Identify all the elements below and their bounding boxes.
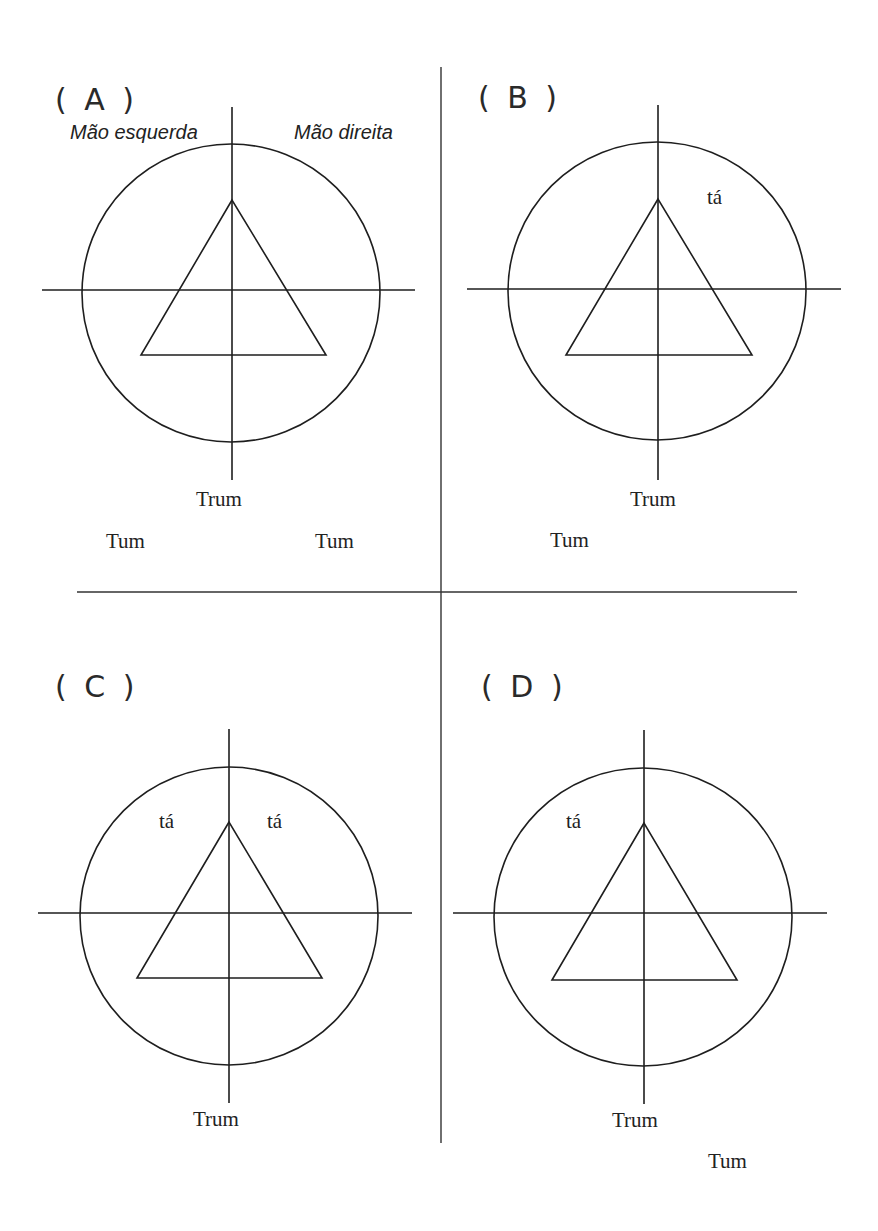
panel-label: ( C ) <box>55 669 138 704</box>
panel-d: ( D )táTrumTum <box>453 669 827 1173</box>
panel-label: ( A ) <box>55 82 138 117</box>
syllable-label: Tum <box>106 529 145 553</box>
syllable-label: Trum <box>612 1108 658 1132</box>
syllable-label: tá <box>159 809 175 833</box>
panels-group: ( A )Mão esquerdaMão direitaTrumTumTum( … <box>38 80 841 1173</box>
syllable-label: tá <box>566 809 582 833</box>
hand-label: Mão esquerda <box>70 121 198 143</box>
syllable-label: Trum <box>193 1107 239 1131</box>
hand-label: Mão direita <box>294 121 393 143</box>
syllable-label: Trum <box>630 487 676 511</box>
rhythm-diagram: ( A )Mão esquerdaMão direitaTrumTumTum( … <box>0 0 878 1231</box>
syllable-label: Tum <box>708 1149 747 1173</box>
panel-a: ( A )Mão esquerdaMão direitaTrumTumTum <box>42 82 415 553</box>
syllable-label: tá <box>707 185 723 209</box>
panel-label: ( B ) <box>478 80 561 115</box>
triangle-shape <box>566 199 752 355</box>
panel-c: ( C )tátáTrum <box>38 669 412 1131</box>
syllable-label: Tum <box>550 528 589 552</box>
circle-shape <box>494 768 792 1066</box>
syllable-label: tá <box>267 809 283 833</box>
diagram-canvas: ( A )Mão esquerdaMão direitaTrumTumTum( … <box>0 0 878 1231</box>
syllable-label: Trum <box>196 487 242 511</box>
circle-shape <box>508 142 806 440</box>
panel-label: ( D ) <box>481 669 567 704</box>
panel-b: ( B )táTrumTum <box>467 80 841 552</box>
circle-shape <box>82 144 380 442</box>
syllable-label: Tum <box>315 529 354 553</box>
triangle-shape <box>141 200 326 355</box>
